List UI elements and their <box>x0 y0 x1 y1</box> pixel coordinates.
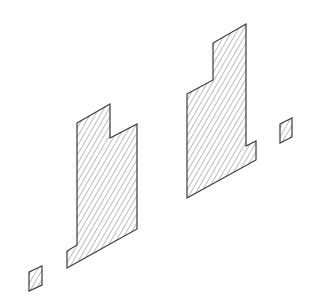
right-section-shape <box>187 24 256 198</box>
diagram-canvas <box>0 0 310 305</box>
small-square-right-shape <box>280 118 292 143</box>
left-section-shape <box>67 104 137 268</box>
small-square-left-shape <box>29 266 42 291</box>
